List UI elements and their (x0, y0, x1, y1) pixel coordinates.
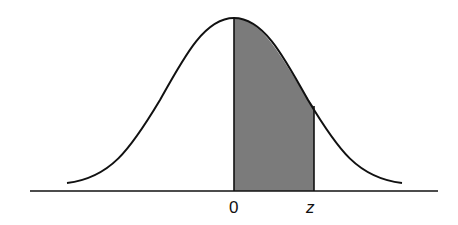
z-label: z (305, 198, 315, 217)
normal-distribution-figure: 0 z (0, 0, 458, 225)
zero-label: 0 (229, 198, 238, 217)
normal-curve-svg: 0 z (0, 0, 458, 225)
